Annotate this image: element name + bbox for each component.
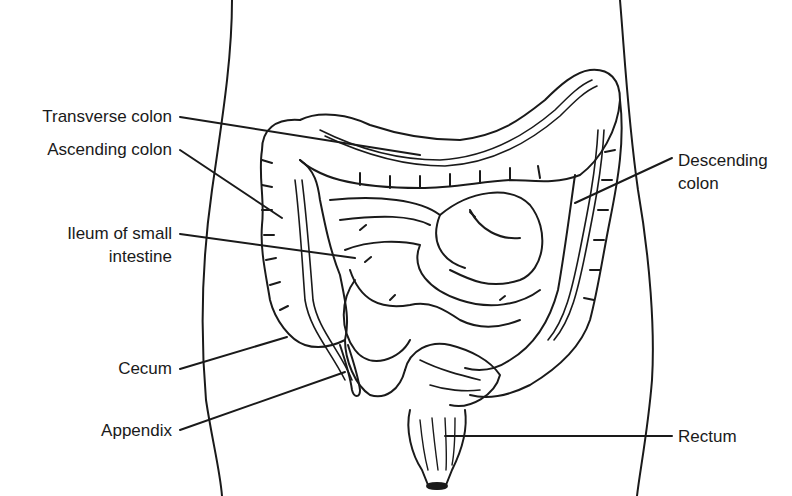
label-descending-line2: colon bbox=[678, 173, 719, 194]
body-outline-right bbox=[620, 0, 653, 496]
leader-cecum bbox=[180, 337, 287, 369]
label-rectum: Rectum bbox=[678, 426, 737, 447]
label-transverse-colon: Transverse colon bbox=[0, 106, 172, 127]
leader-ascending bbox=[180, 150, 282, 218]
label-ileum-line1: Ileum of small bbox=[0, 223, 172, 244]
descending-colon bbox=[470, 100, 622, 397]
label-ileum-line2: intestine bbox=[0, 246, 172, 267]
rectum bbox=[408, 410, 465, 489]
body-outline-left bbox=[203, 0, 232, 496]
label-appendix: Appendix bbox=[0, 420, 172, 441]
intestine-diagram: Transverse colon Ascending colon Ileum o… bbox=[0, 0, 792, 496]
leader-descending bbox=[575, 158, 672, 203]
label-cecum: Cecum bbox=[0, 358, 172, 379]
label-ascending-colon: Ascending colon bbox=[0, 139, 172, 160]
sigmoid-colon bbox=[405, 344, 500, 406]
leader-transverse bbox=[180, 117, 420, 155]
ascending-colon bbox=[261, 120, 347, 347]
label-descending-line1: Descending bbox=[678, 150, 768, 171]
transverse-colon bbox=[300, 70, 620, 188]
